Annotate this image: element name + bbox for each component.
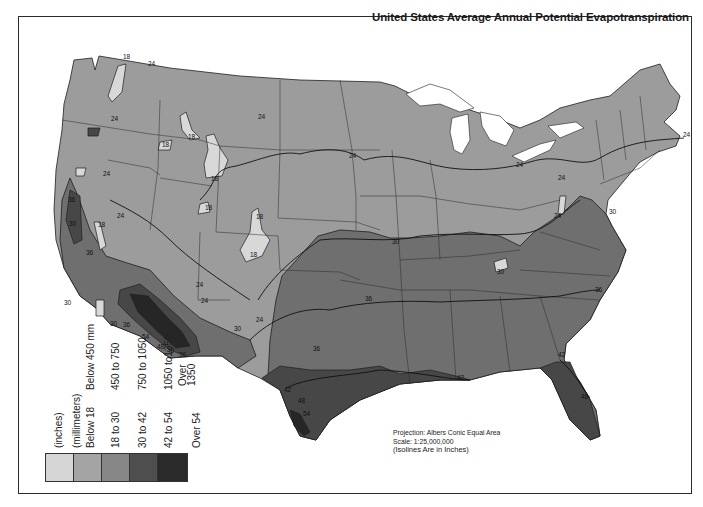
isoline-label: 36: [68, 196, 76, 203]
legend-inches-3: 42 to 54: [163, 412, 174, 448]
legend-swatches: [45, 453, 188, 482]
isoline-label: 18: [98, 221, 106, 228]
legend-mm-4: Over 1350: [178, 358, 196, 386]
isoline-label: 24: [196, 281, 204, 288]
legend-mm-2: 750 to 1050: [137, 337, 148, 390]
isoline-label: 36: [313, 345, 321, 352]
isoline-label: 30: [392, 238, 400, 245]
legend-swatch-30-42: [102, 454, 130, 481]
legend-swatch-over-54: [158, 454, 187, 481]
map-title: United States Average Annual Potential E…: [372, 11, 689, 23]
isoline-label: 24: [349, 152, 357, 159]
isoline-label: 18: [188, 133, 196, 140]
isoline-label: 48: [581, 393, 589, 400]
isoline-label: 48: [298, 397, 306, 404]
isoline-label: 42: [558, 351, 566, 358]
legend-inches-2: 30 to 42: [137, 412, 148, 448]
isoline-label: 24: [258, 113, 266, 120]
isoline-label: 42: [284, 386, 292, 393]
isoline-label: 24: [201, 297, 209, 304]
isoline-label: 54: [303, 410, 311, 417]
legend-mm-3: 1050 to1350: [163, 334, 174, 390]
legend: (inches) (millimeters) Below 18 Below 45…: [24, 320, 194, 448]
isoline-label: 18: [162, 141, 170, 148]
isoline-label: 18: [123, 53, 131, 60]
isoline-label: 24: [516, 161, 524, 168]
isoline-label: 36: [595, 286, 603, 293]
isoline-label: 30: [609, 208, 617, 215]
isoline-label: 30: [497, 268, 505, 275]
isoline-label: 24: [554, 212, 562, 219]
isoline-label: 42: [457, 374, 465, 381]
isoline-label: 30: [234, 325, 242, 332]
isoline-label: 24: [148, 60, 156, 67]
isoline-label: 24: [256, 316, 264, 323]
isoline-label: 18: [256, 213, 264, 220]
isoline-label: 24: [683, 131, 691, 138]
isoline-label: 18: [211, 175, 219, 182]
isoline-label: 24: [117, 212, 125, 219]
isoline-label: 18: [250, 251, 258, 258]
legend-mm-1: 450 to 750: [110, 343, 121, 390]
isolines-unit-text: (Isolines Are in Inches): [393, 446, 500, 455]
isoline-label: 24: [103, 170, 111, 177]
legend-inches-0: Below 18: [85, 407, 96, 448]
projection-text: Projection: Albers Conic Equal Area: [393, 429, 500, 438]
isoline-label: 36: [365, 295, 373, 302]
isoline-label: 36: [86, 249, 94, 256]
projection-note: Projection: Albers Conic Equal Area Scal…: [393, 429, 500, 455]
isoline-label: 30: [69, 220, 77, 227]
legend-header-inches: (inches): [53, 412, 64, 448]
legend-swatch-18-30: [74, 454, 102, 481]
isoline-label: 24: [111, 115, 119, 122]
isoline-label: 18: [205, 204, 213, 211]
legend-swatch-below-18: [46, 454, 74, 481]
isoline-label: 24: [558, 174, 566, 181]
legend-inches-1: 18 to 30: [110, 412, 121, 448]
legend-mm-0: Below 450 mm: [85, 324, 96, 390]
legend-inches-4: Over 54: [191, 412, 202, 448]
legend-header-mm: (millimeters): [71, 394, 82, 448]
legend-swatch-42-54: [130, 454, 158, 481]
isoline-label: 30: [64, 299, 72, 306]
